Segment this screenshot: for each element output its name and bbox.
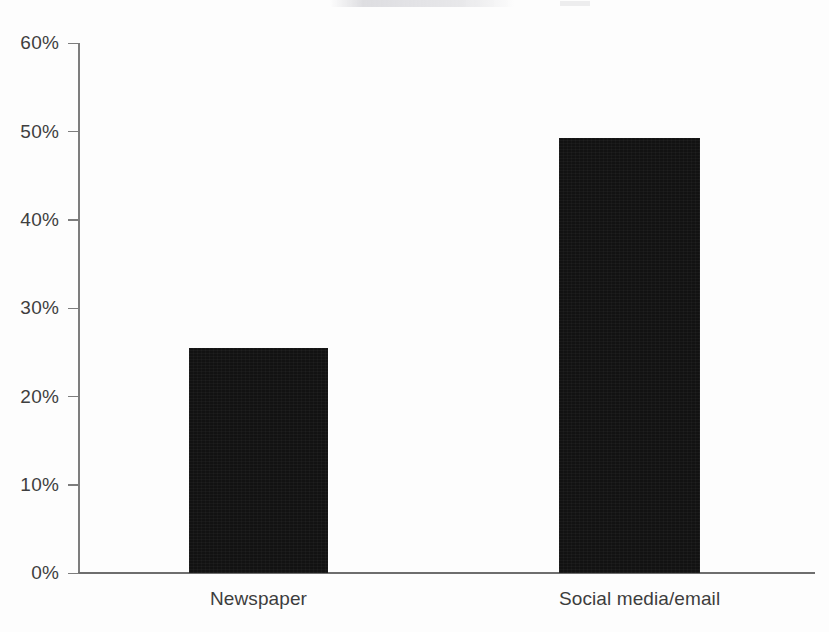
- y-tick-label: 50%: [20, 121, 59, 143]
- y-tick-40: 40%: [68, 219, 79, 221]
- bar-chart: 0%10%20%30%40%50%60% NewspaperSocial med…: [0, 0, 829, 632]
- scan-artifact-secondary: [560, 1, 590, 6]
- y-tick-0: 0%: [68, 573, 79, 575]
- y-tick-20: 20%: [68, 396, 79, 398]
- y-tick-label: 20%: [20, 386, 59, 408]
- bar-1: [189, 348, 328, 573]
- x-axis-label-2: Social media/email: [559, 588, 700, 610]
- y-tick-50: 50%: [68, 131, 79, 133]
- y-tick-label: 10%: [20, 474, 59, 496]
- y-tick-label: 30%: [20, 297, 59, 319]
- bar-2: [559, 138, 700, 573]
- y-tick-label: 40%: [20, 209, 59, 231]
- y-tick-60: 60%: [68, 43, 79, 45]
- y-tick-label: 0%: [31, 562, 59, 584]
- y-tick-30: 30%: [68, 308, 79, 310]
- plot-area: [78, 43, 815, 573]
- y-tick-10: 10%: [68, 484, 79, 486]
- x-axis-label-1: Newspaper: [189, 588, 328, 610]
- y-tick-label: 60%: [20, 32, 59, 54]
- scan-artifact: [330, 0, 515, 7]
